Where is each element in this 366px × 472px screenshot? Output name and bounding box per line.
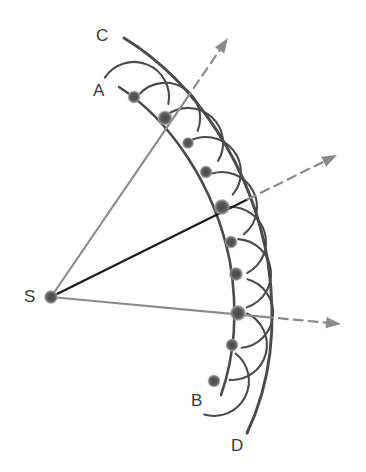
diagram-canvas bbox=[0, 0, 366, 472]
wavefront-point-source bbox=[158, 111, 173, 126]
label-b: B bbox=[191, 392, 203, 409]
label-s: S bbox=[24, 288, 36, 305]
ray-middle bbox=[51, 155, 337, 297]
ray-dashed-segment bbox=[185, 49, 220, 101]
ray-dashed-segment bbox=[247, 161, 325, 200]
wavefront-point-source bbox=[182, 137, 194, 149]
huygens-principle-diagram: C A S B D bbox=[0, 0, 366, 472]
wavefront-point-source bbox=[226, 339, 239, 352]
secondary-wavelets-group bbox=[105, 62, 273, 416]
ray-arrowhead bbox=[326, 317, 342, 328]
ray-arrowhead bbox=[215, 38, 228, 54]
wavefront-point-sources-group bbox=[128, 91, 247, 388]
wavefront-point-source bbox=[214, 199, 230, 215]
wavefront-point-source bbox=[225, 236, 238, 249]
ray-arrowhead bbox=[321, 155, 337, 167]
label-c: C bbox=[96, 27, 109, 44]
ray-solid-segment bbox=[51, 100, 185, 297]
ray-solid-segment bbox=[51, 200, 247, 298]
secondary-wavelet-arc bbox=[190, 137, 241, 195]
wavefront-point-source bbox=[230, 305, 246, 321]
wavefront-cd-envelope-arc bbox=[124, 38, 272, 433]
wavefront-point-source bbox=[128, 91, 141, 104]
wavefront-point-source bbox=[200, 166, 213, 179]
wavefront-point-source bbox=[229, 267, 243, 281]
wavefront-point-source bbox=[208, 375, 221, 388]
source-point-s-dot bbox=[44, 290, 58, 304]
label-d: D bbox=[231, 437, 244, 454]
ray-lower bbox=[51, 297, 341, 328]
label-a: A bbox=[93, 82, 105, 99]
